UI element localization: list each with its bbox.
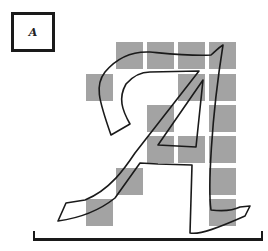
baseline-right-tick	[261, 231, 263, 239]
baseline-rule	[33, 238, 263, 241]
letter-a-outline	[0, 0, 268, 251]
